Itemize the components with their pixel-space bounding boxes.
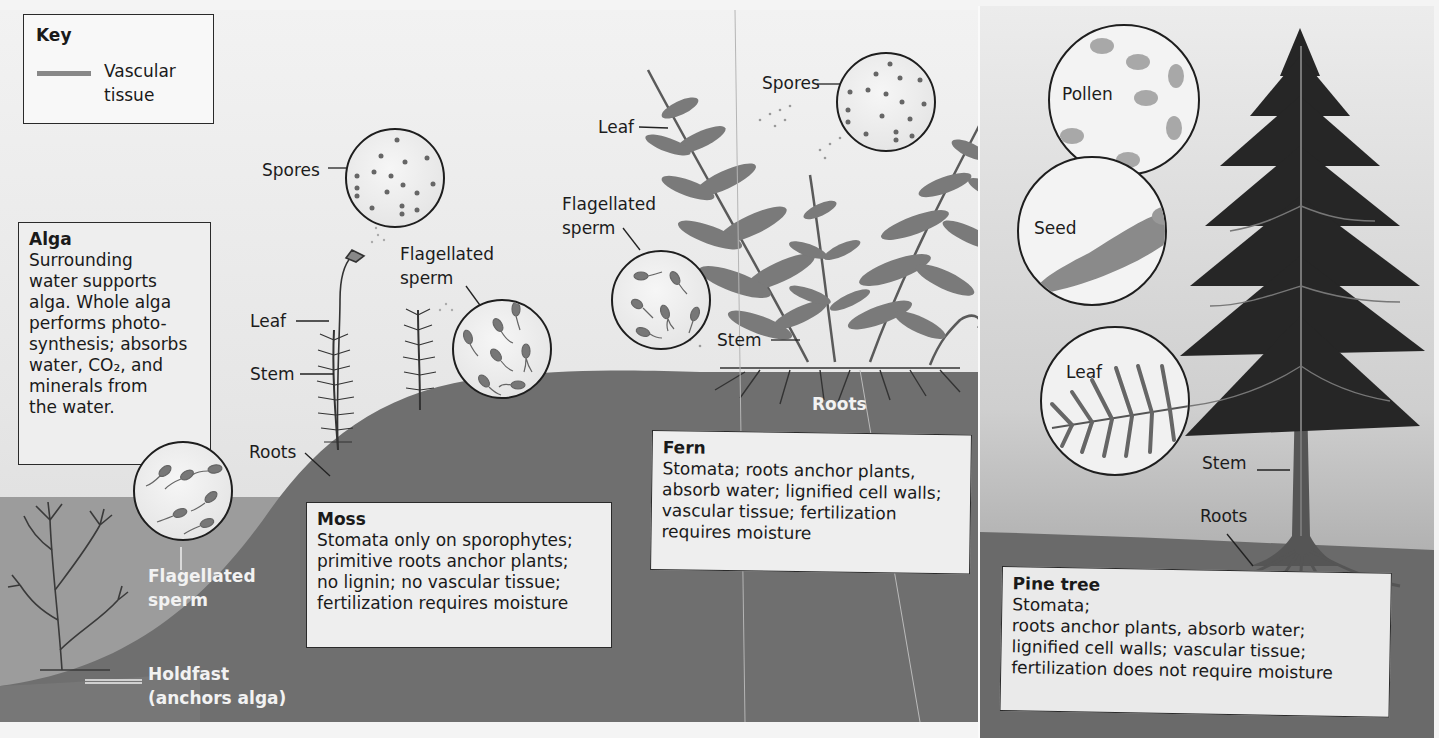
- fern-sperm-magnification: [611, 250, 711, 350]
- seed-magnification: Seed: [1017, 156, 1167, 306]
- spores-icon: [347, 130, 445, 228]
- moss-spores-magnification: [345, 128, 445, 228]
- legend-entry-vascular-tissue: Vascular tissue: [104, 59, 176, 107]
- spores-icon: [838, 54, 936, 152]
- alga-title: Alga: [29, 229, 200, 250]
- alga-description-box: Alga Surrounding water supports alga. Wh…: [18, 222, 211, 465]
- pollen-magnification: Pollen: [1048, 24, 1200, 176]
- fern-roots-label: Roots: [812, 394, 867, 414]
- needle-leaf-icon: [1042, 328, 1190, 476]
- sperm-icon: [613, 252, 711, 350]
- pine-foliage: [1180, 28, 1425, 436]
- fern-spores-label: Spores: [762, 73, 820, 93]
- legend-key: Key Vascular tissue: [23, 14, 214, 124]
- fern-spores-magnification: [836, 52, 936, 152]
- alga-sperm-label: Flagellated sperm: [148, 564, 256, 612]
- moss-description-box: Moss Stomata only on sporophytes; primit…: [306, 502, 612, 648]
- moss-leaf-label: Leaf: [250, 311, 286, 331]
- holdfast-label: Holdfast (anchors alga): [148, 662, 286, 710]
- pine-leaf-magnification: Leaf: [1040, 326, 1190, 476]
- moss-sperm-label: Flagellated sperm: [400, 242, 494, 290]
- pine-stem-label: Stem: [1202, 453, 1246, 473]
- moss-spores-label: Spores: [262, 160, 320, 180]
- main-panel: Key Vascular tissue Alga Surrounding wat…: [0, 10, 1000, 722]
- pine-roots-label: Roots: [1200, 506, 1247, 526]
- sperm-icon: [454, 301, 552, 399]
- moss-roots-label: Roots: [249, 442, 296, 462]
- vascular-tissue-swatch: [37, 71, 91, 76]
- fern-stem-label: Stem: [717, 330, 761, 350]
- seed-label: Seed: [1034, 218, 1077, 238]
- pine-description-box: Pine tree Stomata; roots anchor plants, …: [999, 566, 1391, 718]
- pine-tree-panel: Pollen Seed Leaf Stem Roots Pine tree St…: [978, 6, 1434, 738]
- pollen-label: Pollen: [1062, 84, 1113, 104]
- fern-sperm-label: Flagellated sperm: [562, 192, 656, 240]
- moss-sperm-magnification: [452, 299, 552, 399]
- fern-description-box: Fern Stomata; roots anchor plants, absor…: [650, 430, 972, 574]
- alga-sperm-magnification: [133, 441, 233, 541]
- moss-stem-label: Stem: [250, 364, 294, 384]
- moss-title: Moss: [317, 509, 601, 530]
- fern-leaf-label: Leaf: [598, 117, 634, 137]
- legend-title: Key: [36, 25, 72, 45]
- pine-leaf-label: Leaf: [1066, 362, 1102, 382]
- sperm-icon: [135, 443, 233, 541]
